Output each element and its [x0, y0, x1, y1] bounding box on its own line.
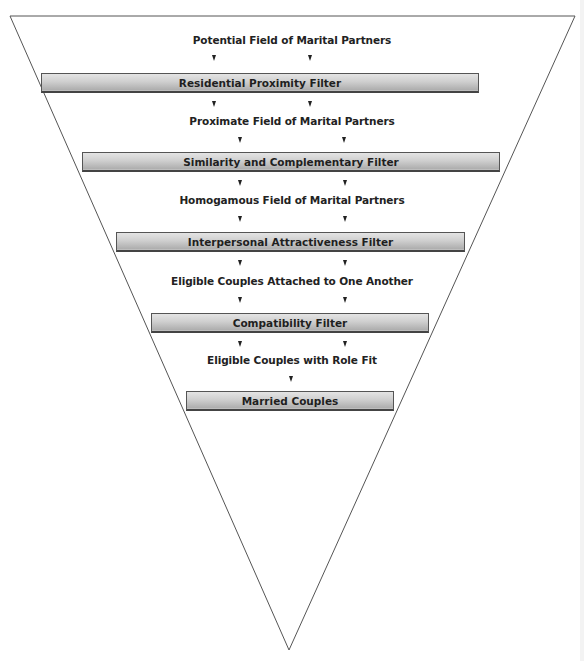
arrow-down-icon	[238, 297, 242, 303]
arrow-down-icon	[343, 341, 347, 347]
arrow-down-icon	[289, 376, 293, 382]
right-edge-strip	[580, 0, 584, 661]
arrow-down-icon	[238, 260, 242, 266]
arrow-down-icon	[238, 137, 242, 143]
arrow-down-icon	[238, 216, 242, 222]
arrow-down-icon	[343, 216, 347, 222]
arrow-down-icon	[238, 180, 242, 186]
stage-eligible-couples-attached: Eligible Couples Attached to One Another	[0, 275, 584, 287]
arrow-down-icon	[212, 101, 216, 107]
arrow-down-icon	[308, 101, 312, 107]
filter-compatibility: Compatibility Filter	[151, 313, 429, 333]
filter-married-couples: Married Couples	[186, 391, 394, 411]
arrow-down-icon	[342, 137, 346, 143]
filter-similarity-complementary: Similarity and Complementary Filter	[82, 152, 500, 172]
filter-interpersonal-attractiveness: Interpersonal Attractiveness Filter	[116, 232, 465, 252]
arrow-down-icon	[238, 341, 242, 347]
arrow-down-icon	[212, 55, 216, 61]
stage-eligible-couples-role-fit: Eligible Couples with Role Fit	[0, 354, 584, 366]
arrow-down-icon	[343, 297, 347, 303]
arrow-down-icon	[308, 55, 312, 61]
filter-residential-proximity: Residential Proximity Filter	[41, 73, 479, 93]
stage-proximate-field: Proximate Field of Marital Partners	[0, 115, 584, 127]
stage-potential-field: Potential Field of Marital Partners	[0, 34, 584, 46]
arrow-down-icon	[343, 180, 347, 186]
stage-homogamous-field: Homogamous Field of Marital Partners	[0, 194, 584, 206]
arrow-down-icon	[343, 260, 347, 266]
